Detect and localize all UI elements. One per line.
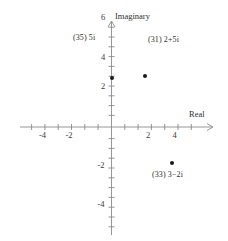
x-tick-label-4: 4 bbox=[173, 131, 177, 140]
data-point-label-31: (31) 2+5i bbox=[148, 36, 179, 44]
data-point-35[interactable] bbox=[110, 76, 114, 80]
y-tick-label-6: 6 bbox=[101, 13, 105, 22]
real-axis-label: Real bbox=[189, 110, 205, 119]
data-point-label-35: (35) 5i bbox=[73, 34, 95, 42]
x-tick-label--4: -4 bbox=[39, 131, 46, 140]
x-tick-label--2: -2 bbox=[66, 131, 73, 140]
complex-plane-chart bbox=[0, 0, 228, 241]
data-point-label-33: (33) 3−2i bbox=[152, 171, 183, 179]
y-tick-label-2: 2 bbox=[101, 82, 105, 91]
data-point-33[interactable] bbox=[170, 161, 174, 165]
y-tick-label--4: -4 bbox=[98, 200, 105, 209]
imaginary-axis-label: Imaginary bbox=[115, 12, 150, 21]
data-point-31[interactable] bbox=[143, 74, 147, 78]
y-tick-label--2: -2 bbox=[98, 161, 105, 170]
x-tick-label-2: 2 bbox=[146, 131, 150, 140]
y-tick-label-4: 4 bbox=[101, 53, 105, 62]
